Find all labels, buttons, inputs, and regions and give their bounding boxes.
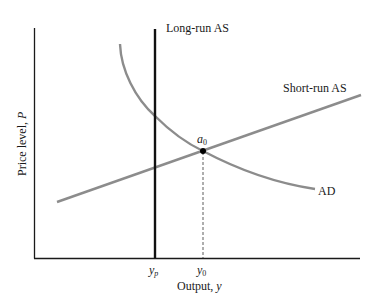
equilibrium-label: a0 [197,132,207,147]
short-run-as-line [57,95,361,202]
short-run-as-label: Short-run AS [283,81,347,95]
ad-label: AD [318,184,336,198]
long-run-as-label: Long-run AS [166,21,229,35]
ad-as-diagram: Long-run AS Short-run AS AD a0 yp y0 Out… [0,0,382,306]
tick-label-yp: yp [148,263,158,278]
equilibrium-point [200,148,206,154]
tick-label-y0: y0 [196,263,206,278]
x-axis-label: Output, y [177,279,222,293]
y-axis-label: Price level, P [15,111,29,176]
ad-curve [120,44,315,189]
